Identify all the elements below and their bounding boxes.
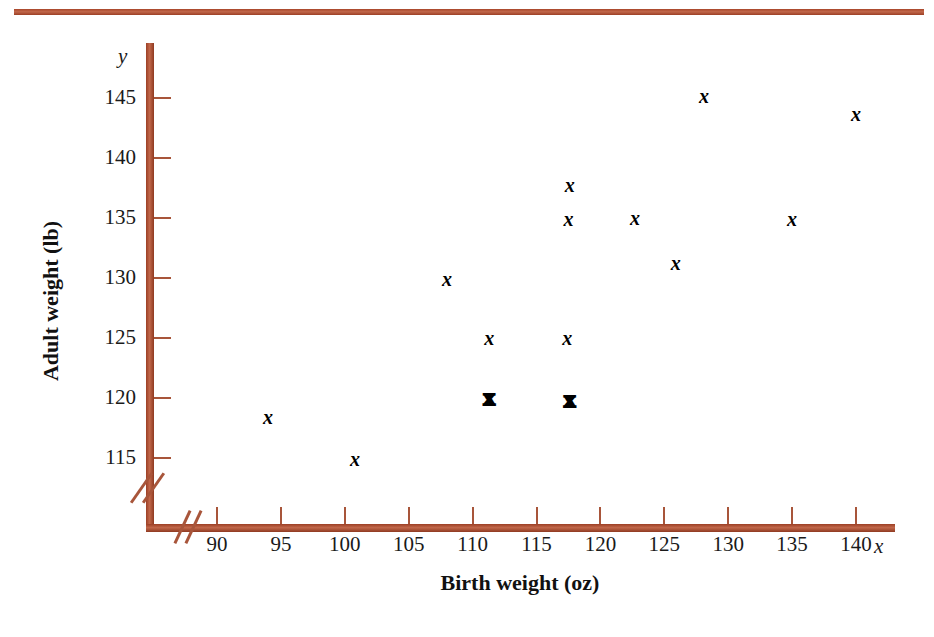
data-point: x (666, 253, 686, 273)
x-tick-label: 135 (762, 534, 822, 555)
x-axis-variable-letter: x (874, 534, 883, 559)
x-tick (472, 507, 474, 524)
x-tick (280, 507, 282, 524)
x-tick (216, 507, 218, 524)
data-point: x (557, 328, 577, 348)
x-tick-label: 105 (379, 534, 439, 555)
x-axis-title: Birth weight (oz) (320, 570, 720, 596)
x-tick-label: 120 (570, 534, 630, 555)
y-tick (154, 217, 171, 219)
data-point: x (258, 407, 278, 427)
data-point: x (782, 209, 802, 229)
data-point: x (846, 104, 866, 124)
x-tick-label: 115 (507, 534, 567, 555)
data-point: x (625, 208, 645, 228)
x-tick (536, 507, 538, 524)
x-tick (599, 507, 601, 524)
x-tick (855, 507, 857, 524)
data-point: x (437, 269, 457, 289)
data-point: x (558, 209, 578, 229)
data-point: x (560, 175, 580, 195)
y-axis-variable-letter: y (118, 44, 127, 69)
x-tick-label: 130 (698, 534, 758, 555)
x-tick-label: 90 (187, 534, 247, 555)
x-tick-label: 95 (251, 534, 311, 555)
x-tick-label: 110 (443, 534, 503, 555)
scatter-plot-figure: 115120125130135140145 909510010511011512… (0, 0, 934, 637)
x-tick (727, 507, 729, 524)
y-axis-title: Adult weight (lb) (38, 146, 64, 456)
y-tick-label: 130 (88, 267, 136, 288)
y-tick (154, 277, 171, 279)
data-point-emphasized: x (560, 388, 580, 411)
y-tick-label: 145 (88, 87, 136, 108)
data-point: x (345, 449, 365, 469)
y-axis-tick-labels: 115120125130135140145 (88, 0, 136, 637)
y-tick (154, 97, 171, 99)
y-tick (154, 397, 171, 399)
y-tick-label: 120 (88, 387, 136, 408)
y-axis-line (146, 43, 154, 530)
data-point: x (479, 328, 499, 348)
x-tick (344, 507, 346, 524)
y-tick-label: 115 (88, 447, 136, 468)
x-tick (408, 507, 410, 524)
x-tick-label: 100 (315, 534, 375, 555)
y-tick (154, 337, 171, 339)
x-tick (791, 507, 793, 524)
x-tick (663, 507, 665, 524)
y-tick (154, 457, 171, 459)
data-point: x (694, 86, 714, 106)
data-point-emphasized: x (479, 386, 499, 409)
y-tick-label: 125 (88, 327, 136, 348)
top-rule-decoration (14, 9, 924, 15)
x-tick-label: 125 (634, 534, 694, 555)
y-tick-label: 135 (88, 207, 136, 228)
y-tick-label: 140 (88, 147, 136, 168)
y-tick (154, 157, 171, 159)
x-axis-line (146, 524, 895, 532)
